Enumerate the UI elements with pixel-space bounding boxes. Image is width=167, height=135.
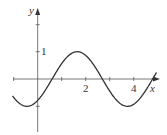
x-tick-label-2: 2 [83,82,89,94]
x-tick-label-4: 4 [131,82,137,94]
y-axis-arrow-icon [35,8,40,15]
function-graph: y x 2 4 1 [0,0,167,135]
y-tick-label-1: 1 [41,45,47,57]
y-axis-label: y [28,4,34,16]
